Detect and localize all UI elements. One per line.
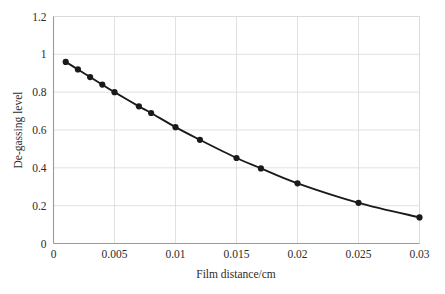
x-tick-label: 0.025 — [346, 248, 372, 260]
data-point-marker — [136, 103, 142, 109]
x-tick-label: 0.005 — [102, 248, 128, 260]
data-point-marker — [111, 89, 117, 95]
data-point-marker — [172, 124, 178, 130]
chart-background — [0, 0, 445, 294]
x-tick-label: 0.015 — [224, 248, 250, 260]
y-tick-label: 1 — [41, 48, 47, 60]
data-point-marker — [258, 165, 264, 171]
data-point-marker — [63, 59, 69, 65]
x-tick-label: 0.02 — [287, 248, 307, 260]
chart-figure: 00.0050.010.0150.020.0250.03 00.20.40.60… — [0, 0, 445, 294]
y-tick-label: 0.6 — [32, 124, 47, 136]
x-tick-label: 0.01 — [165, 248, 185, 260]
y-tick-label: 0.2 — [32, 200, 47, 212]
data-point-marker — [233, 155, 239, 161]
data-point-marker — [294, 180, 300, 186]
y-tick-label: 0 — [41, 238, 47, 250]
y-tick-label: 0.4 — [32, 162, 47, 174]
x-axis-title: Film distance/cm — [196, 268, 276, 280]
data-point-marker — [75, 66, 81, 72]
data-point-marker — [197, 137, 203, 143]
data-point-marker — [87, 74, 93, 80]
x-tick-label: 0 — [51, 248, 57, 260]
data-point-marker — [416, 214, 422, 220]
y-tick-label: 1.2 — [32, 11, 47, 23]
y-axis-title: De-gassing level — [12, 92, 25, 169]
data-point-marker — [148, 110, 154, 116]
data-point-marker — [99, 82, 105, 88]
y-tick-label: 0.8 — [32, 86, 47, 98]
data-point-marker — [355, 200, 361, 206]
x-tick-label: 0.03 — [409, 248, 429, 260]
degassing-level-line-chart: 00.0050.010.0150.020.0250.03 00.20.40.60… — [0, 0, 445, 294]
